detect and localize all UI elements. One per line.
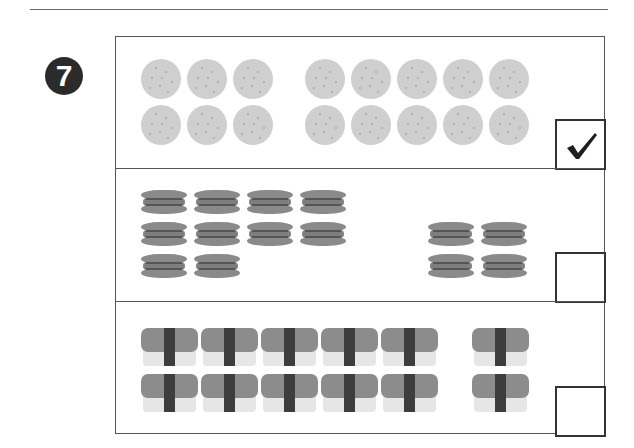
- top-divider: [30, 9, 608, 10]
- checkmark-icon: [565, 131, 599, 161]
- sandwich-cookie-icon: [194, 222, 240, 246]
- answer-checkbox-crackers[interactable]: [555, 119, 606, 170]
- cracker-icon: [141, 59, 181, 99]
- sushi-icon: [321, 374, 378, 412]
- cracker-icon: [351, 105, 391, 145]
- sandwich-cookie-icon: [141, 190, 187, 214]
- cracker-icon: [187, 59, 227, 99]
- option-row-sandwich-cookies: [116, 168, 604, 301]
- sandwich-cookie-icon: [247, 190, 293, 214]
- cracker-icon: [351, 59, 391, 99]
- cracker-icon: [305, 59, 345, 99]
- sandwich-cookie-icon: [428, 222, 474, 246]
- sushi-icon: [381, 328, 438, 366]
- answer-options-frame: [115, 36, 605, 434]
- cracker-icon: [233, 105, 273, 145]
- sushi-icon: [141, 328, 198, 366]
- sandwich-cookie-icon: [194, 190, 240, 214]
- sushi-group-right: [472, 328, 529, 412]
- sushi-icon: [201, 328, 258, 366]
- sushi-group-left: [141, 328, 438, 412]
- cracker-icon: [443, 59, 483, 99]
- sushi-icon: [381, 374, 438, 412]
- answer-checkbox-sushi[interactable]: [555, 386, 606, 437]
- cracker-icon: [397, 105, 437, 145]
- sandwich-cookie-icon: [141, 222, 187, 246]
- sandwich-cookie-icon: [300, 190, 346, 214]
- cracker-icon: [233, 59, 273, 99]
- cracker-icon: [397, 59, 437, 99]
- option-row-sushi: [116, 301, 604, 435]
- cracker-group-right: [305, 59, 529, 145]
- cookie-group-right: [428, 222, 527, 278]
- sandwich-cookie-icon: [300, 222, 346, 246]
- sandwich-cookie-icon: [481, 254, 527, 278]
- question-number-badge: 7: [45, 57, 83, 95]
- cracker-icon: [443, 105, 483, 145]
- sandwich-cookie-icon: [141, 254, 187, 278]
- sushi-icon: [141, 374, 198, 412]
- cookie-group-left: [141, 190, 346, 278]
- sushi-icon: [201, 374, 258, 412]
- cracker-icon: [187, 105, 227, 145]
- sandwich-cookie-icon: [481, 222, 527, 246]
- cracker-group-left: [141, 59, 273, 145]
- option-row-crackers: [116, 37, 604, 168]
- cracker-icon: [305, 105, 345, 145]
- sushi-icon: [472, 328, 529, 366]
- answer-checkbox-sandwich-cookies[interactable]: [555, 252, 606, 303]
- sushi-icon: [261, 374, 318, 412]
- sushi-icon: [261, 328, 318, 366]
- cracker-icon: [489, 105, 529, 145]
- cracker-icon: [489, 59, 529, 99]
- sandwich-cookie-icon: [247, 222, 293, 246]
- sushi-icon: [472, 374, 529, 412]
- cracker-icon: [141, 105, 181, 145]
- sushi-icon: [321, 328, 378, 366]
- sandwich-cookie-icon: [428, 254, 474, 278]
- sandwich-cookie-icon: [194, 254, 240, 278]
